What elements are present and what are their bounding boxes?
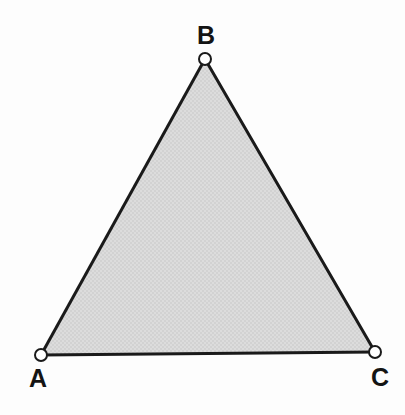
vertex-label-c: C	[371, 365, 389, 390]
triangle-diagram-svg	[0, 0, 405, 415]
figure-canvas: A B C	[0, 0, 405, 415]
vertex-marker-c[interactable]	[369, 346, 381, 358]
vertex-label-b: B	[197, 23, 215, 48]
vertex-marker-a[interactable]	[35, 349, 47, 361]
triangle-shape	[41, 59, 375, 355]
vertex-marker-b[interactable]	[199, 53, 211, 65]
vertex-label-a: A	[29, 366, 47, 391]
